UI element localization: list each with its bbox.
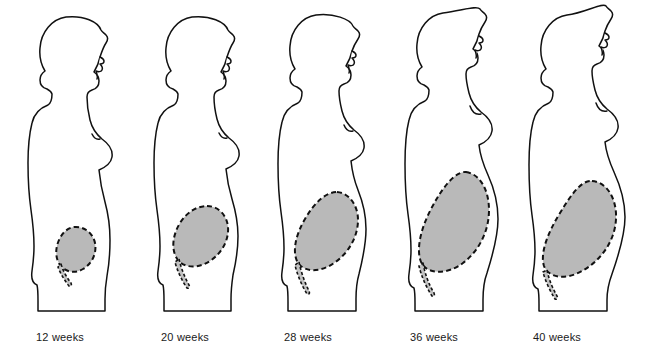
stage-label-20-weeks: 20 weeks bbox=[161, 331, 209, 344]
stage-figure-28-weeks: 28 weeks bbox=[264, 0, 397, 330]
stage-figure-12-weeks: 12 weeks bbox=[14, 0, 147, 330]
stage-figure-40-weeks: 40 weeks bbox=[514, 0, 647, 330]
stage-label-36-weeks: 36 weeks bbox=[410, 331, 458, 344]
stage-label-40-weeks: 40 weeks bbox=[533, 331, 581, 344]
pregnancy-stage-illustration: 12 weeks 20 weeks 28 weeks bbox=[0, 0, 667, 358]
stage-label-28-weeks: 28 weeks bbox=[284, 331, 332, 344]
stage-figure-36-weeks: 36 weeks bbox=[390, 0, 523, 330]
body-silhouette bbox=[154, 17, 239, 311]
stage-label-12-weeks: 12 weeks bbox=[36, 331, 84, 344]
stage-figure-20-weeks: 20 weeks bbox=[140, 0, 273, 330]
